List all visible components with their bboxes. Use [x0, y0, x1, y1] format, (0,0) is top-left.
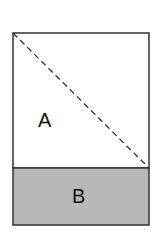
area-diagram: A B	[0, 0, 164, 237]
label-b: B	[72, 185, 85, 207]
label-a: A	[38, 109, 52, 131]
